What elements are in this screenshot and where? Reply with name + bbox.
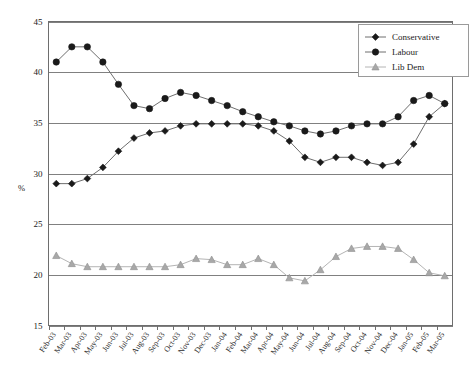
data-point bbox=[332, 253, 339, 260]
data-point bbox=[410, 97, 416, 103]
data-point bbox=[69, 44, 75, 50]
data-point bbox=[177, 261, 184, 268]
data-point bbox=[379, 162, 386, 169]
data-point bbox=[53, 252, 60, 259]
data-point bbox=[239, 120, 246, 127]
y-tick-label: 40 bbox=[34, 67, 44, 77]
data-point bbox=[270, 261, 277, 268]
data-point bbox=[68, 260, 75, 267]
data-point bbox=[146, 130, 153, 137]
legend-marker-circle-icon bbox=[372, 49, 378, 55]
data-point bbox=[84, 175, 91, 182]
y-tick-label: 35 bbox=[34, 118, 44, 128]
data-point bbox=[426, 92, 432, 98]
data-point bbox=[162, 128, 169, 135]
data-point bbox=[208, 97, 214, 103]
x-axis-tick-labels: Feb-03Mar-03Apr-03May-03Jun-03Jul-03Aug-… bbox=[38, 330, 447, 356]
y-axis-tick-labels: 15202530354045 bbox=[34, 17, 44, 331]
series-line bbox=[56, 104, 444, 184]
chart-canvas: 15202530354045 Feb-03Mar-03Apr-03May-03J… bbox=[0, 0, 471, 382]
data-point bbox=[100, 59, 106, 65]
y-tick-label: 25 bbox=[34, 219, 44, 229]
y-tick-label: 30 bbox=[34, 169, 44, 179]
y-tick-label: 20 bbox=[34, 270, 44, 280]
poll-trend-chart: 15202530354045 Feb-03Mar-03Apr-03May-03J… bbox=[0, 0, 471, 382]
data-point bbox=[162, 95, 168, 101]
data-point bbox=[177, 89, 183, 95]
data-point bbox=[53, 59, 59, 65]
data-point bbox=[364, 159, 371, 166]
data-point bbox=[364, 121, 370, 127]
legend-label: Lib Dem bbox=[392, 62, 424, 72]
data-point bbox=[208, 120, 215, 127]
data-point bbox=[395, 114, 401, 120]
series-layer bbox=[53, 44, 449, 284]
data-point bbox=[286, 123, 292, 129]
data-point bbox=[348, 154, 355, 161]
x-tick-label: Jun-04 bbox=[287, 330, 307, 353]
data-point bbox=[115, 81, 121, 87]
data-point bbox=[68, 180, 75, 187]
data-point bbox=[240, 108, 246, 114]
x-tick-label: Jun-03 bbox=[100, 330, 120, 353]
data-point bbox=[317, 159, 324, 166]
data-point bbox=[270, 128, 277, 135]
data-point bbox=[410, 256, 417, 263]
data-point bbox=[146, 105, 152, 111]
data-point bbox=[53, 180, 60, 187]
y-tick-label: 15 bbox=[34, 321, 44, 331]
data-point bbox=[333, 128, 339, 134]
data-point bbox=[348, 123, 354, 129]
data-point bbox=[271, 119, 277, 125]
series-lib-dem bbox=[53, 243, 449, 284]
data-point bbox=[255, 114, 261, 120]
data-point bbox=[302, 128, 308, 134]
data-point bbox=[317, 131, 323, 137]
data-point bbox=[442, 100, 448, 106]
data-point bbox=[84, 44, 90, 50]
data-point bbox=[193, 92, 199, 98]
y-tick-label: 45 bbox=[34, 17, 44, 27]
data-point bbox=[379, 121, 385, 127]
data-point bbox=[333, 154, 340, 161]
data-point bbox=[224, 102, 230, 108]
legend-label: Labour bbox=[392, 47, 418, 57]
chart-legend: ConservativeLabourLib Dem bbox=[359, 25, 469, 77]
legend-label: Conservative bbox=[392, 32, 440, 42]
data-point bbox=[224, 120, 231, 127]
data-point bbox=[131, 102, 137, 108]
data-point bbox=[193, 120, 200, 127]
data-point bbox=[255, 255, 262, 262]
y-axis-title: % bbox=[18, 183, 25, 193]
